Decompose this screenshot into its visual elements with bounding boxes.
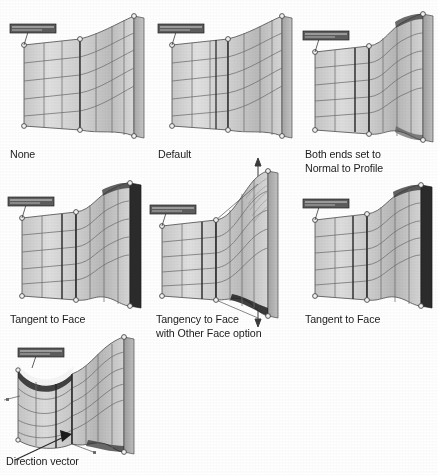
callout-tag [303,31,349,40]
panel-normal-to-profile [303,8,438,148]
callout-tag [18,348,64,357]
panel-tangent-to-face-right [303,182,438,314]
caption-normal-to-profile: Both ends set to Normal to Profile [305,148,431,175]
panel-tangency-other-face [150,158,296,328]
caption-none: None [10,148,131,162]
loft-surface-normal-to-profile [303,8,438,148]
callout-tag [150,205,196,214]
loft-end-conditions-figure: None [0,0,438,475]
callout-tag [158,24,204,33]
panel-none [8,8,148,143]
panel-default [156,8,296,143]
callout-tag [8,197,54,206]
caption-tangent-left: Tangent to Face [10,313,140,327]
callout-tag [10,24,56,33]
loft-surface-none [8,8,148,143]
panel-direction-vector [10,330,160,465]
caption-tangency-other-face: Tangency to Face with Other Face option [156,313,296,340]
loft-surface-default [156,8,296,143]
loft-surface-tangency-other-face [150,158,296,328]
caption-direction-vector: Direction vector [6,455,146,469]
loft-surface-direction-vector [10,330,160,465]
panel-tangent-to-face-left [8,178,148,313]
loft-surface-tangent-right [303,182,438,314]
callout-tag [303,199,349,208]
caption-tangent-right: Tangent to Face [305,313,431,327]
loft-surface-tangent-left [8,178,148,313]
